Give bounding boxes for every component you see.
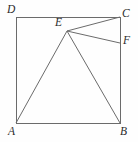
vertex-label-d: D bbox=[7, 4, 15, 16]
segment-ea bbox=[16, 31, 67, 123]
geometry-canvas bbox=[0, 0, 138, 142]
vertex-label-f: F bbox=[123, 35, 130, 47]
segment-eb bbox=[67, 31, 120, 123]
vertex-label-b: B bbox=[120, 126, 127, 138]
vertex-label-e: E bbox=[55, 17, 62, 29]
segment-ef bbox=[67, 31, 120, 43]
geometry-figure: D C E F A B bbox=[0, 0, 138, 142]
vertex-label-c: C bbox=[122, 8, 130, 20]
segment-ec bbox=[67, 17, 120, 31]
vertex-label-a: A bbox=[8, 126, 15, 138]
